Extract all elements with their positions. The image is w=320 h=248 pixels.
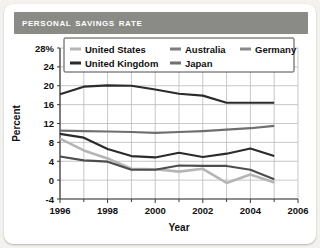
y-tick-label: 12 — [43, 118, 54, 129]
x-tick-label: 2002 — [192, 205, 213, 216]
x-tick-label: 2006 — [287, 205, 308, 216]
series-line-japan — [60, 85, 274, 102]
x-tick-label: 1998 — [97, 205, 118, 216]
legend-label: Germany — [255, 44, 297, 55]
y-tick-label: 28% — [35, 43, 55, 54]
series-line-germany — [60, 126, 274, 133]
y-tick-label: 0 — [49, 175, 54, 186]
x-tick-label: 2004 — [240, 205, 262, 216]
y-tick-label: 4 — [49, 156, 55, 167]
chart-card: Personal Savings Rate 28%24201612840-419… — [4, 4, 316, 244]
title-bar: Personal Savings Rate — [14, 12, 308, 34]
x-axis-title: Year — [168, 222, 189, 233]
y-tick-label: 8 — [49, 137, 54, 148]
y-axis-title: Percent — [11, 104, 22, 141]
figure-root: Personal Savings Rate 28%24201612840-419… — [0, 0, 320, 248]
page-title: Personal Savings Rate — [22, 15, 142, 29]
x-tick-label: 2000 — [145, 205, 166, 216]
legend-label: United States — [85, 44, 146, 55]
y-tick-label: -4 — [46, 194, 55, 205]
y-tick-label: 20 — [43, 80, 54, 91]
line-chart: 28%24201612840-4199619982000200220042006… — [4, 34, 316, 244]
y-tick-label: 16 — [43, 99, 54, 110]
plot-area: 28%24201612840-4199619982000200220042006… — [4, 34, 316, 244]
x-tick-label: 1996 — [49, 205, 70, 216]
legend-label: United Kingdom — [85, 58, 158, 69]
series-line-australia — [60, 157, 274, 180]
legend-label: Australia — [185, 44, 226, 55]
legend-label: Japan — [185, 58, 213, 69]
y-tick-label: 24 — [43, 61, 54, 72]
